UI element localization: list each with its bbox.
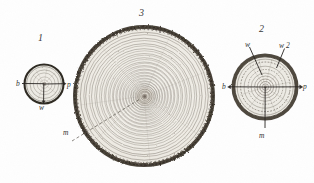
- figure-3-number: 3: [139, 8, 144, 18]
- figure-1-label-p: p: [67, 81, 71, 89]
- paper-grain: [0, 0, 314, 183]
- plate-drawing: [0, 0, 314, 183]
- figure-3-label-m: m: [63, 129, 68, 137]
- figure-2-label-w2: w 2: [279, 42, 290, 50]
- figure-1-label-w: w: [39, 104, 44, 112]
- figure-2-label-p: p: [303, 83, 307, 91]
- figure-2-label-w: w: [245, 41, 250, 49]
- figure-2-label-m: m: [259, 132, 264, 140]
- figure-1-number: 1: [38, 33, 43, 43]
- figure-2-label-b: b: [222, 83, 226, 91]
- figure-1-label-b: b: [16, 80, 20, 88]
- illustration-plate: 1 3 2 b p w m w w 2 b p m: [0, 0, 314, 183]
- figure-2-number: 2: [259, 24, 264, 34]
